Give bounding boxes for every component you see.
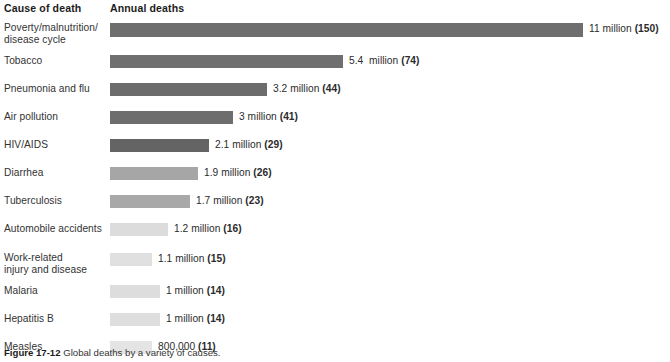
bar-value-main: 3 million: [239, 111, 280, 122]
bar: [110, 83, 267, 96]
bar: [110, 313, 160, 326]
header-cause-of-death: Cause of death: [4, 2, 81, 14]
bar-row: Hepatitis B1 million (14): [0, 312, 670, 338]
bar-row: Poverty/malnutrition/ disease cycle11 mi…: [0, 22, 670, 48]
cause-label: Automobile accidents: [4, 223, 108, 235]
bar: [110, 111, 233, 124]
bar: [110, 167, 198, 180]
cause-label: Poverty/malnutrition/ disease cycle: [4, 22, 108, 46]
cause-label: HIV/AIDS: [4, 139, 108, 151]
bar-value-label: 1.1 million (15): [158, 253, 226, 264]
bar-row: Automobile accidents1.2 million (16): [0, 222, 670, 248]
bar-row: Malaria1 million (14): [0, 284, 670, 310]
bar-row: Pneumonia and flu3.2 million (44): [0, 82, 670, 108]
bar-value-index: (26): [253, 167, 271, 178]
bar-value-index: (14): [207, 313, 225, 324]
bar-value-main: 3.2 million: [273, 83, 322, 94]
bar-value-main: 11 million: [589, 23, 635, 34]
bar-value-index: (41): [280, 111, 298, 122]
bar-value-label: 3 million (41): [239, 111, 298, 122]
bar-row: Tuberculosis1.7 million (23): [0, 194, 670, 220]
bar-value-label: 11 million (150): [589, 23, 659, 34]
bar-value-index: (16): [223, 223, 241, 234]
bar-value-label: 1 million (14): [166, 313, 225, 324]
bar-row: Diarrhea1.9 million (26): [0, 166, 670, 192]
figure-caption-text: Global deaths by a variety of causes.: [61, 347, 221, 358]
bar-value-label: 3.2 million (44): [273, 83, 341, 94]
bar-value-main: 1.9 million: [204, 167, 253, 178]
bar-value-index: (44): [322, 83, 340, 94]
bar-value-main: 1.2 million: [174, 223, 223, 234]
bar-value-main: 1.7 million: [196, 195, 245, 206]
cause-label: Diarrhea: [4, 167, 108, 179]
bar-value-index: (74): [401, 55, 419, 66]
figure-caption-number: Figure 17-12: [4, 347, 61, 358]
bar-value-main: 5.4 million: [349, 55, 401, 66]
bar: [110, 285, 160, 298]
column-headers: Cause of death Annual deaths: [0, 0, 670, 18]
cause-label: Tuberculosis: [4, 195, 108, 207]
cause-label: Hepatitis B: [4, 313, 108, 325]
bar-row: Work-related injury and disease1.1 milli…: [0, 252, 670, 278]
bar: [110, 223, 168, 236]
header-annual-deaths: Annual deaths: [110, 2, 184, 14]
bar-value-main: 1 million: [166, 285, 207, 296]
bar-value-main: 1 million: [166, 313, 207, 324]
bar-value-index: (14): [207, 285, 225, 296]
bar: [110, 253, 152, 266]
figure-caption: Figure 17-12 Global deaths by a variety …: [4, 347, 664, 358]
bar-value-label: 1.7 million (23): [196, 195, 264, 206]
bar-value-label: 1 million (14): [166, 285, 225, 296]
bar-value-main: 1.1 million: [158, 253, 207, 264]
bar-value-label: 1.2 million (16): [174, 223, 242, 234]
bar-row: HIV/AIDS2.1 million (29): [0, 138, 670, 164]
cause-label: Pneumonia and flu: [4, 83, 108, 95]
bar-row: Air pollution3 million (41): [0, 110, 670, 136]
cause-label: Work-related injury and disease: [4, 252, 108, 276]
bar-value-index: (150): [635, 23, 659, 34]
cause-label: Air pollution: [4, 111, 108, 123]
bar-value-label: 1.9 million (26): [204, 167, 272, 178]
bar: [110, 195, 190, 208]
bar: [110, 139, 209, 152]
bar-value-label: 5.4 million (74): [349, 55, 420, 66]
bar-value-label: 2.1 million (29): [215, 139, 283, 150]
cause-label: Malaria: [4, 285, 108, 297]
cause-label: Tobacco: [4, 55, 108, 67]
bar-value-index: (23): [245, 195, 263, 206]
bar-value-index: (29): [264, 139, 282, 150]
bar-row: Tobacco5.4 million (74): [0, 54, 670, 80]
bar: [110, 55, 343, 68]
bar-value-main: 2.1 million: [215, 139, 264, 150]
bar-value-index: (15): [207, 253, 225, 264]
bar: [110, 23, 583, 37]
